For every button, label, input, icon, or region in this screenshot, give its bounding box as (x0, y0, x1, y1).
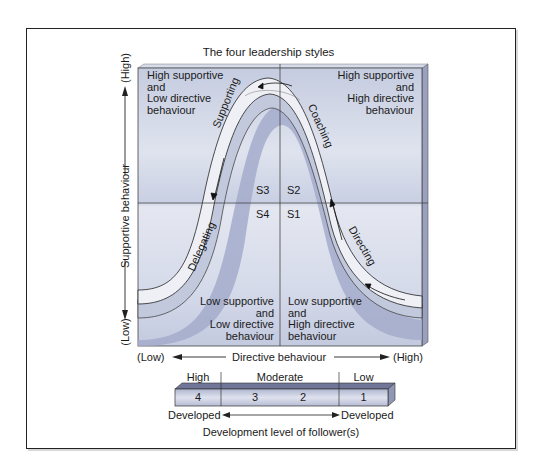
quadrant-top-left: High supportive and Low directive behavi… (147, 70, 223, 116)
y-axis-label: Supportive behaviour (119, 156, 131, 276)
x-axis-high: (High) (393, 351, 423, 363)
bar-level-2: 2 (293, 391, 313, 403)
bar-level-4: 4 (175, 391, 221, 403)
quadrant-line: behaviour (147, 105, 223, 117)
bar-header-moderate: Moderate (221, 371, 339, 383)
bar-level-1: 1 (339, 391, 388, 403)
y-axis-high: (High) (119, 47, 131, 89)
quadrant-line: behaviour (320, 105, 414, 117)
developed-right: Developed (341, 409, 394, 421)
x-axis-low: (Low) (137, 351, 165, 363)
quadrant-line: High supportive (320, 70, 414, 82)
quadrant-top-right: High supportive and High directive behav… (320, 70, 414, 116)
quadrant-line: High directive (320, 93, 414, 105)
quadrant-bottom-left: Low supportive and Low directive behavio… (180, 296, 274, 342)
bar-header-low: Low (339, 371, 388, 383)
quadrant-line: Low supportive (288, 296, 362, 308)
y-axis-low: (Low) (119, 313, 131, 351)
quadrant-line: Low directive (147, 93, 223, 105)
developed-left: Developed (168, 409, 221, 421)
quadrant-bottom-right: Low supportive and High directive behavi… (288, 296, 362, 342)
bar-level-3: 3 (245, 391, 265, 403)
bar-header-high: High (175, 371, 221, 383)
style-s4: S4 (256, 208, 269, 220)
quadrant-line: High directive (288, 319, 362, 331)
x-axis-label: Directive behaviour (232, 351, 326, 363)
style-s2: S2 (287, 184, 300, 196)
style-s3: S3 (256, 184, 269, 196)
quadrant-line: behaviour (180, 331, 274, 343)
leadership-diagram (0, 0, 537, 476)
quadrant-line: Low directive (180, 319, 274, 331)
quadrant-line: behaviour (288, 331, 362, 343)
bar-caption: Development level of follower(s) (0, 426, 537, 438)
quadrant-line: Low supportive (180, 296, 274, 308)
quadrant-line: High supportive (147, 70, 223, 82)
style-s1: S1 (287, 208, 300, 220)
